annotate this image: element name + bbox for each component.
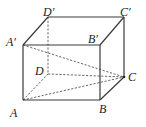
point-c-marker [123, 76, 126, 79]
edge-bc [100, 77, 124, 100]
label-a: A [9, 106, 18, 120]
label-d: D [34, 64, 44, 78]
edge-d1a1 [23, 17, 48, 45]
edge-b1c1 [100, 17, 124, 45]
label-d-prime: D′ [42, 5, 55, 19]
edge-dc [48, 74, 124, 77]
diagonal-ac [23, 77, 124, 100]
label-a-prime: A′ [5, 35, 16, 49]
cuboid-diagram: A B C D A′ B′ C′ D′ [0, 0, 146, 127]
label-c-prime: C′ [120, 5, 131, 19]
label-b-prime: B′ [88, 32, 98, 46]
label-b: B [99, 102, 107, 116]
label-c: C [128, 70, 137, 84]
